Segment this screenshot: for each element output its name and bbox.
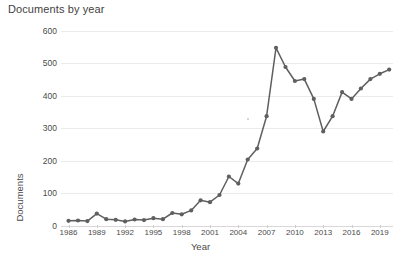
y-tick-label-100: 100 [43,188,57,198]
data-point-1997 [170,211,174,215]
y-axis-tick-labels: 0100200300400500600 [24,24,57,226]
documents-line-series [61,24,393,226]
x-tick-label-2019: 2019 [371,228,389,237]
x-tick-label-2016: 2016 [343,228,361,237]
data-point-2018 [368,77,372,81]
data-point-2005 [246,157,250,161]
data-point-1991 [114,218,118,222]
y-axis-title-container: Documents [6,80,20,170]
data-point-2002 [217,193,221,197]
data-point-1996 [161,217,165,221]
x-tick-label-1989: 1989 [88,228,106,237]
data-point-2007 [265,114,269,118]
data-point-2012 [312,97,316,101]
data-point-markers [66,46,391,224]
x-tick-label-2001: 2001 [201,228,219,237]
x-axis-title: Year [0,241,401,252]
x-tick-label-2007: 2007 [258,228,276,237]
x-tick-label-2004: 2004 [229,228,247,237]
x-tick-label-1986: 1986 [60,228,78,237]
data-point-2000 [199,198,203,202]
chart-title: Documents by year [8,3,104,15]
stray-speck [247,118,249,120]
x-tick-label-1992: 1992 [116,228,134,237]
data-point-2014 [331,114,335,118]
y-tick-label-500: 500 [43,58,57,68]
y-axis-title: Documents [14,153,25,243]
data-point-2004 [236,182,240,186]
chart-figure: Documents by year Documents 010020030040… [0,0,401,261]
y-tick-label-400: 400 [43,91,57,101]
x-axis-tick-labels: 1986198919921995199820012004200720102013… [61,228,393,242]
y-tick-label-600: 600 [43,26,57,36]
x-tick-label-2010: 2010 [286,228,304,237]
data-point-2008 [274,46,278,50]
line-path [69,48,390,222]
data-point-2015 [340,90,344,94]
data-point-1995 [151,216,155,220]
data-point-1999 [189,208,193,212]
data-point-1987 [76,218,80,222]
data-point-1989 [95,212,99,216]
data-point-2020 [387,68,391,72]
series-layer [61,24,393,226]
data-point-2009 [283,65,287,69]
x-tick-label-1995: 1995 [144,228,162,237]
data-point-2017 [359,86,363,90]
data-point-2010 [293,79,297,83]
data-point-1998 [180,212,184,216]
data-point-1990 [104,217,108,221]
y-tick-label-200: 200 [43,156,57,166]
x-tick-label-2013: 2013 [314,228,332,237]
data-point-2003 [227,174,231,178]
gridline-0 [61,226,393,227]
data-point-2016 [349,97,353,101]
data-point-2011 [302,77,306,81]
x-tick-label-1998: 1998 [173,228,191,237]
data-point-1992 [123,219,127,223]
data-point-1993 [133,217,137,221]
data-point-1994 [142,218,146,222]
data-point-1986 [66,219,70,223]
data-point-1988 [85,219,89,223]
y-tick-label-300: 300 [43,123,57,133]
data-point-2001 [208,200,212,204]
data-point-2006 [255,146,259,150]
data-point-2013 [321,129,325,133]
plot-area [61,24,393,226]
y-tick-label-0: 0 [52,221,57,231]
data-point-2019 [378,72,382,76]
